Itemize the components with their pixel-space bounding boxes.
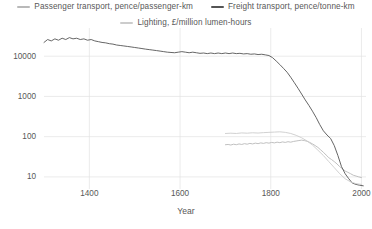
series-line-1 bbox=[44, 38, 363, 186]
legend-item-passenger-transport: Passenger transport, pence/passenger-km bbox=[17, 2, 193, 12]
x-tick-label: 1800 bbox=[262, 189, 280, 199]
legend-label-freight-transport: Freight transport, pence/tonne-km bbox=[228, 2, 355, 12]
series-line-2 bbox=[225, 132, 361, 185]
legend-swatch-passenger-transport bbox=[17, 6, 30, 8]
y-tick-label: 10 bbox=[27, 172, 36, 181]
chart-container: Passenger transport, pence/passenger-km … bbox=[0, 0, 372, 229]
x-axis-tick-labels: 1400160018002000 bbox=[0, 189, 372, 205]
legend-item-freight-transport: Freight transport, pence/tonne-km bbox=[211, 2, 355, 12]
y-axis-tick-labels: 10100100010000 bbox=[0, 26, 44, 191]
plot-svg bbox=[0, 26, 372, 191]
series-line-0 bbox=[225, 140, 361, 177]
legend-row-primary: Passenger transport, pence/passenger-km … bbox=[0, 0, 372, 13]
gridlines-group bbox=[44, 28, 366, 189]
legend-swatch-lighting bbox=[120, 22, 133, 24]
series-group bbox=[44, 38, 363, 186]
legend-swatch-freight-transport bbox=[211, 6, 224, 8]
plot-area bbox=[0, 26, 372, 191]
x-tick-label: 1400 bbox=[80, 189, 98, 199]
y-tick-label: 100 bbox=[22, 132, 36, 141]
y-tick-label: 1000 bbox=[18, 92, 36, 101]
legend-label-passenger-transport: Passenger transport, pence/passenger-km bbox=[34, 2, 193, 12]
x-tick-label: 1600 bbox=[171, 189, 189, 199]
y-tick-label: 10000 bbox=[13, 52, 36, 61]
x-axis-title: Year bbox=[0, 206, 372, 216]
x-tick-label: 2000 bbox=[352, 189, 370, 199]
